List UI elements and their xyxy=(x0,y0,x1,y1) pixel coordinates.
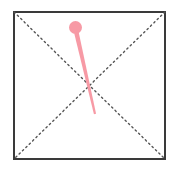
canvas-root xyxy=(0,0,177,175)
pin-head-icon xyxy=(69,21,82,34)
scene-canvas xyxy=(0,0,177,175)
